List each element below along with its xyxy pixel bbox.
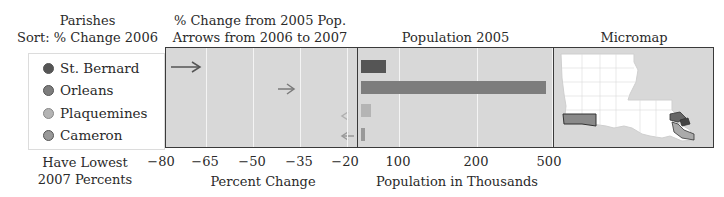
sort-label: Sort: % Change 2006 bbox=[0, 29, 175, 46]
population-panel bbox=[357, 47, 554, 148]
cameron-dot-icon bbox=[43, 130, 54, 141]
louisiana-map-icon bbox=[554, 48, 714, 148]
legend-item-st-bernard: St. Bernard bbox=[43, 58, 139, 78]
arrows-subtitle: Arrows from 2006 to 2007 bbox=[160, 29, 360, 46]
cameron-arrow-icon bbox=[342, 132, 354, 140]
legend-label: Plaquemines bbox=[60, 105, 148, 121]
percent-axis-label: Percent Change bbox=[210, 174, 315, 189]
st-bernard-dot-icon bbox=[43, 63, 54, 74]
gridline bbox=[300, 48, 301, 147]
legend-item-plaquemines: Plaquemines bbox=[43, 103, 148, 123]
parishes-header-title: Parishes bbox=[0, 12, 175, 29]
legend-item-cameron: Cameron bbox=[43, 125, 122, 145]
cameron-bar bbox=[361, 128, 365, 141]
micromap-header: Micromap bbox=[554, 29, 714, 46]
gridline bbox=[206, 48, 207, 147]
legend-item-orleans: Orleans bbox=[43, 80, 114, 100]
population-tick: 100 bbox=[386, 154, 411, 169]
percent-tick: −80 bbox=[147, 154, 174, 169]
plaquemines-bar bbox=[361, 104, 371, 117]
percent-tick: −20 bbox=[331, 154, 358, 169]
st-bernard-arrow-icon bbox=[171, 62, 200, 72]
legend-label: Orleans bbox=[60, 82, 114, 98]
population-axis-label: Population in Thousands bbox=[376, 174, 538, 189]
population-tick: 500 bbox=[537, 154, 562, 169]
legend-label: St. Bernard bbox=[60, 60, 139, 76]
percent-change-title: % Change from 2005 Pop. bbox=[160, 12, 360, 29]
parishes-header: Parishes Sort: % Change 2006 bbox=[0, 12, 175, 46]
orleans-arrow-icon bbox=[278, 84, 294, 94]
population-header: Population 2005 bbox=[357, 29, 554, 46]
legend-label: Cameron bbox=[60, 127, 122, 143]
footer-line-2: 2007 Percents bbox=[10, 171, 160, 188]
orleans-dot-icon bbox=[43, 85, 54, 96]
footer-note: Have Lowest 2007 Percents bbox=[10, 154, 160, 188]
percent-change-header: % Change from 2005 Pop. Arrows from 2006… bbox=[160, 12, 360, 46]
percent-change-panel bbox=[165, 47, 358, 148]
cameron-region bbox=[563, 114, 596, 126]
percent-tick: −65 bbox=[191, 154, 218, 169]
gridline bbox=[477, 48, 478, 147]
plaquemines-dot-icon bbox=[43, 108, 54, 119]
gridline bbox=[253, 48, 254, 147]
gridline bbox=[347, 48, 348, 147]
micromap-panel bbox=[553, 47, 714, 148]
orleans-bar bbox=[361, 81, 546, 94]
population-tick: 200 bbox=[464, 154, 489, 169]
arrows-plot bbox=[166, 48, 358, 148]
percent-tick: −35 bbox=[285, 154, 312, 169]
parish-legend: St. Bernard Orleans Plaquemines Cameron bbox=[28, 53, 165, 150]
st-bernard-bar bbox=[361, 60, 386, 73]
footer-line-1: Have Lowest bbox=[10, 154, 160, 171]
percent-tick: −50 bbox=[238, 154, 265, 169]
gridline bbox=[399, 48, 400, 147]
